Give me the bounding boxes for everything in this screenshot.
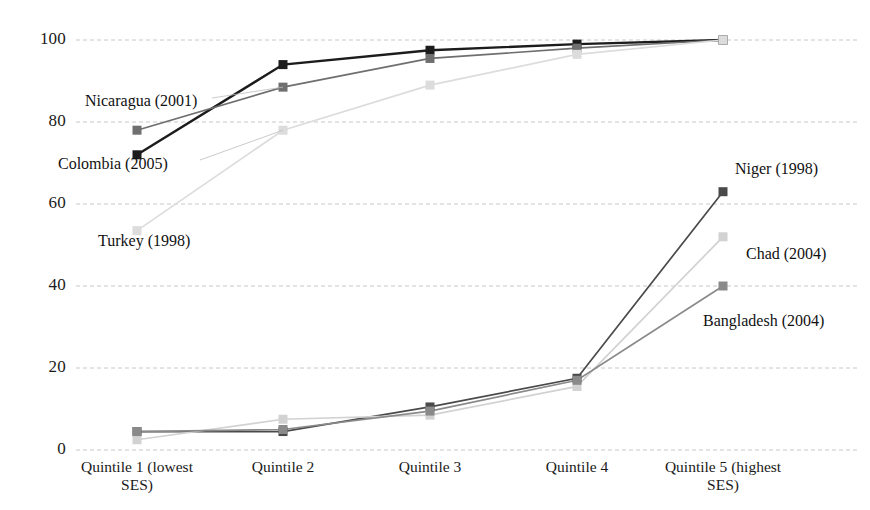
data-point-marker [719, 232, 728, 241]
x-tick-label-line: Quintile 5 (highest [638, 458, 808, 476]
x-tick-label-line: Quintile 2 [198, 458, 368, 476]
series-annotation-label: Bangladesh (2004) [703, 312, 824, 330]
series-line-niger-1998 [137, 192, 723, 432]
data-point-marker [133, 427, 142, 436]
line-chart: 100806040200 Quintile 1 (lowestSES)Quint… [0, 0, 870, 510]
data-point-marker [573, 376, 582, 385]
data-point-marker [426, 54, 435, 63]
series-annotation-label: Chad (2004) [746, 245, 826, 263]
plot-area [0, 0, 870, 510]
data-point-marker [719, 282, 728, 291]
series-line-turkey-1998 [137, 40, 723, 231]
data-point-marker [133, 435, 142, 444]
series-annotation-label: Colombia (2005) [58, 155, 168, 173]
x-tick-label: Quintile 5 (highestSES) [638, 458, 808, 495]
x-tick-label: Quintile 3 [345, 458, 515, 476]
y-tick-label: 0 [8, 439, 66, 459]
data-point-marker [133, 126, 142, 135]
x-tick-label-line: Quintile 3 [345, 458, 515, 476]
y-tick-label: 40 [8, 275, 66, 295]
data-point-marker [426, 81, 435, 90]
data-point-marker [719, 187, 728, 196]
x-tick-label-line: SES) [52, 476, 222, 494]
series-annotation-label: Niger (1998) [735, 160, 818, 178]
annotation-leader-line [200, 130, 283, 160]
x-tick-label-line: Quintile 1 (lowest [52, 458, 222, 476]
data-point-marker [573, 50, 582, 59]
annotation-leader-line [212, 87, 283, 98]
annotation-leader-lines [200, 87, 283, 160]
x-tick-label-line: SES) [638, 476, 808, 494]
x-tick-label-line: Quintile 4 [492, 458, 662, 476]
y-tick-label: 100 [8, 29, 66, 49]
data-point-marker [719, 36, 728, 45]
data-point-marker [279, 415, 288, 424]
x-tick-label: Quintile 1 (lowestSES) [52, 458, 222, 495]
y-tick-label: 80 [8, 111, 66, 131]
data-point-marker [426, 407, 435, 416]
y-tick-label: 20 [8, 357, 66, 377]
y-tick-label: 60 [8, 193, 66, 213]
series-annotation-label: Turkey (1998) [98, 232, 190, 250]
data-point-marker [426, 46, 435, 55]
x-tick-label: Quintile 4 [492, 458, 662, 476]
data-point-marker [279, 425, 288, 434]
series-annotation-label: Nicaragua (2001) [85, 92, 197, 110]
series-lines-group [137, 40, 723, 440]
data-point-marker [279, 60, 288, 69]
x-tick-label: Quintile 2 [198, 458, 368, 476]
